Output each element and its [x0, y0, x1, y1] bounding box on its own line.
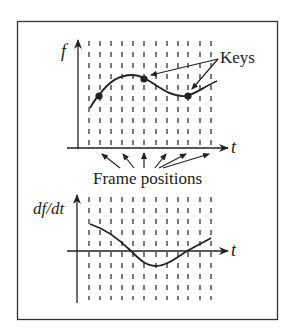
top-graph: f t Keys Frame positions: [61, 40, 255, 188]
bottom-x-axis-label: t: [231, 240, 237, 260]
key-point-1: [95, 92, 102, 99]
top-x-axis-label: t: [231, 137, 237, 157]
top-y-axis-label: f: [61, 41, 69, 61]
key-point-3: [184, 92, 191, 99]
keys-arrow-to-key-3: [192, 59, 218, 89]
keys-arrow-to-key-2: [151, 59, 218, 75]
bottom-y-axis-label: df/dt: [33, 199, 65, 218]
f-curve: [90, 75, 217, 108]
frame-position-arrows: [102, 153, 209, 168]
keys-label: Keys: [220, 48, 255, 67]
key-point-2: [140, 75, 147, 82]
df-dt-curve: [90, 224, 211, 266]
frame-positions-label: Frame positions: [93, 169, 202, 188]
keyframe-diagram: f t Keys Frame positions: [0, 0, 290, 331]
bottom-graph: df/dt t: [33, 195, 237, 303]
